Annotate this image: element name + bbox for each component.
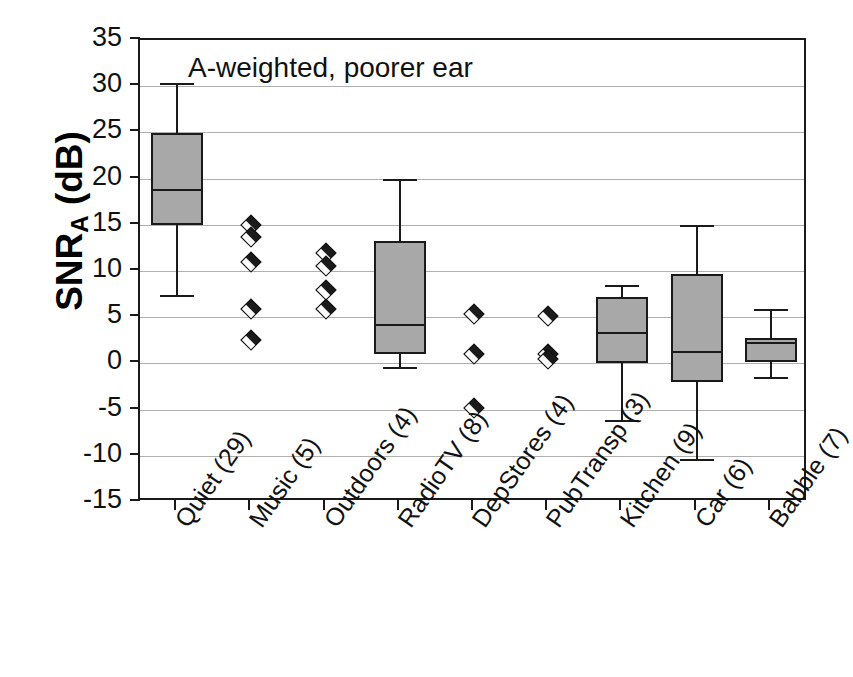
y-axis-tick-label: 5 [62, 301, 122, 328]
y-axis-tick-label: 15 [62, 209, 122, 236]
y-axis-tick-label: -10 [62, 440, 122, 467]
whisker-cap-upper [754, 309, 788, 311]
y-axis-tick-label: 25 [62, 116, 122, 143]
y-axis-tick-label: 10 [62, 255, 122, 282]
y-axis-tick-label: -5 [62, 394, 122, 421]
y-axis-tick-label: 35 [62, 24, 122, 51]
y-axis-tick-label: 20 [62, 163, 122, 190]
y-axis-tick-label: 30 [62, 70, 122, 97]
median-line [745, 342, 797, 344]
chart-annotation: A-weighted, poorer ear [188, 52, 473, 84]
y-axis-tick-label: 0 [62, 347, 122, 374]
y-axis-tick-label: -15 [62, 486, 122, 513]
whisker-cap-lower [754, 377, 788, 379]
